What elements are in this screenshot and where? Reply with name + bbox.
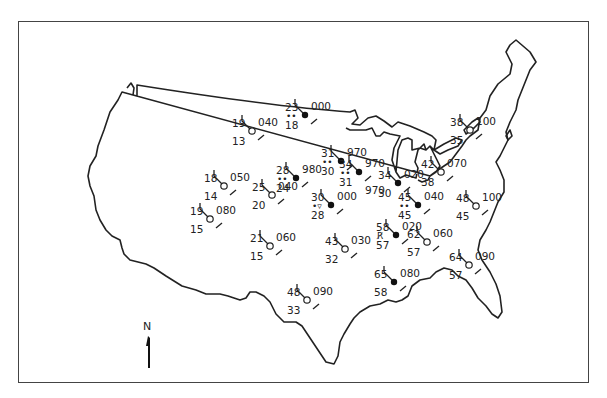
dewpoint-label: 15	[250, 250, 263, 262]
temperature-label: 18	[204, 172, 217, 184]
pressure-label: 100	[476, 115, 496, 127]
dewpoint-label: 30	[378, 187, 391, 199]
temperature-label: 48	[287, 286, 300, 298]
pressure-label: 050	[230, 171, 250, 183]
pressure-tendency-icon	[313, 304, 319, 309]
pressure-tendency-icon	[216, 223, 222, 228]
pressure-label: 090	[475, 250, 495, 262]
station-plot: 4238070	[421, 156, 467, 188]
station-plot: 6558080	[374, 266, 420, 298]
pressure-label: 060	[433, 227, 453, 239]
pressure-label: 040	[278, 180, 298, 192]
station-plot: 2115060	[250, 230, 296, 262]
pressure-label: 000	[337, 190, 357, 202]
dewpoint-label: 13	[232, 135, 245, 147]
temperature-label: 19	[232, 117, 245, 129]
dewpoint-label: 38	[421, 176, 434, 188]
dewpoint-label: 32	[325, 253, 338, 265]
dewpoint-label: 45	[456, 210, 469, 222]
present-weather-icon: ••	[399, 201, 410, 211]
temperature-label: 43	[325, 235, 338, 247]
pressure-label: 040	[424, 190, 444, 202]
pressure-tendency-icon	[476, 134, 482, 139]
dewpoint-label: 20	[252, 199, 265, 211]
dewpoint-label: 35	[450, 134, 463, 146]
station-plot: 6457090	[449, 249, 495, 281]
us-weather-map: N 2318000••19130403130970••1814050282498…	[0, 0, 607, 398]
pressure-tendency-icon	[482, 210, 488, 215]
pressure-tendency-icon	[447, 176, 453, 181]
pressure-tendency-icon	[230, 190, 236, 195]
station-plot: 4845100	[456, 190, 502, 222]
pressure-tendency-icon	[351, 253, 357, 258]
temperature-label: 21	[250, 232, 263, 244]
pressure-label: 980	[302, 163, 322, 175]
temperature-label: 25	[252, 181, 265, 193]
dewpoint-label: 33	[287, 304, 300, 316]
pressure-tendency-icon	[400, 286, 406, 291]
temperature-label: 62	[407, 228, 420, 240]
dewpoint-label: 15	[190, 223, 203, 235]
temperature-label: 64	[449, 251, 463, 263]
dewpoint-label: 57	[407, 246, 420, 258]
present-weather-icon: ••	[286, 111, 297, 121]
north-arrow: N	[143, 320, 151, 368]
pressure-tendency-icon	[475, 269, 481, 274]
pressure-tendency-icon	[424, 209, 430, 214]
station-plots: 2318000••19130403130970••18140502824980•…	[190, 99, 502, 316]
dewpoint-label: 58	[374, 286, 387, 298]
pressure-label: 080	[216, 204, 236, 216]
dewpoint-label: 57	[449, 269, 462, 281]
pressure-tendency-icon	[276, 250, 282, 255]
pressure-label: 040	[258, 116, 278, 128]
station-plot: 4833090	[287, 284, 333, 316]
station-plot: 6257060	[407, 226, 453, 258]
pressure-label: 080	[400, 267, 420, 279]
present-weather-icon: ••	[340, 168, 351, 178]
station-plot: 1814050	[204, 170, 250, 202]
pressure-tendency-icon	[337, 209, 343, 214]
pressure-label: 970	[365, 157, 385, 169]
station-plot: 1915080	[190, 203, 236, 235]
present-weather-icon: R̸	[376, 231, 383, 241]
north-arrow-icon	[146, 336, 150, 368]
station-plot: 2318000••	[285, 99, 331, 131]
north-arrow-label: N	[143, 320, 151, 333]
present-weather-icon: •▿	[312, 201, 322, 211]
temperature-label: 34	[378, 169, 392, 181]
temperature-label: 48	[456, 192, 469, 204]
pressure-label: 030	[351, 234, 371, 246]
pressure-tendency-icon	[433, 246, 439, 251]
pressure-label: 100	[482, 191, 502, 203]
pressure-tendency-icon	[365, 176, 371, 181]
pressure-label: 090	[313, 285, 333, 297]
pressure-label: 070	[447, 157, 467, 169]
pressure-tendency-icon	[302, 182, 308, 187]
temperature-label: 38	[450, 116, 463, 128]
pressure-label: 000	[311, 100, 331, 112]
temperature-label: 65	[374, 268, 387, 280]
dewpoint-label: 14	[204, 190, 218, 202]
pressure-tendency-icon	[258, 135, 264, 140]
station-plot: 4332030	[325, 233, 371, 265]
station-plot: 3028000•▿	[311, 189, 357, 221]
station-plot: 4545040••	[398, 189, 444, 221]
present-weather-icon: ••	[322, 157, 333, 167]
station-plot: 1913040	[232, 115, 278, 147]
station-plot: 3835100	[450, 114, 496, 146]
pressure-tendency-icon	[311, 119, 317, 124]
temperature-label: 42	[421, 158, 434, 170]
pressure-label: 060	[276, 231, 296, 243]
pressure-tendency-icon	[278, 199, 284, 204]
temperature-label: 19	[190, 205, 203, 217]
